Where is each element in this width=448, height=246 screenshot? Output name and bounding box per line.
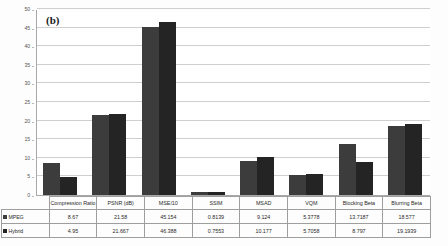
bar-group bbox=[37, 10, 86, 195]
bar-group bbox=[86, 10, 135, 195]
legend-label: MPEG bbox=[9, 214, 24, 220]
bar bbox=[109, 114, 126, 195]
table-cell-value: 46.388 bbox=[144, 224, 192, 238]
table-cell-value: 0.7553 bbox=[192, 224, 240, 238]
bar bbox=[388, 126, 405, 195]
bar bbox=[339, 144, 356, 195]
table-cell-value: 0.8139 bbox=[192, 210, 240, 224]
plot-area bbox=[36, 10, 430, 196]
bar bbox=[356, 162, 373, 195]
bar bbox=[159, 22, 176, 195]
table-cell-value: 19.1939 bbox=[383, 224, 431, 238]
y-axis-tick-mark bbox=[32, 159, 34, 160]
y-axis-tick-mark bbox=[32, 122, 34, 123]
y-axis-tick-mark bbox=[32, 84, 34, 85]
bar-group bbox=[185, 10, 234, 195]
table-header-row: Compression RatioPSNR (dB)MSE/10SSIMMSAD… bbox=[2, 197, 431, 210]
gridline bbox=[37, 8, 430, 9]
column-header: MSAD bbox=[240, 197, 288, 210]
legend-swatch-icon bbox=[3, 229, 7, 233]
table-corner-cell bbox=[2, 197, 50, 210]
bar bbox=[60, 177, 77, 195]
y-axis-tick-mark bbox=[32, 47, 34, 48]
table-cell-value: 8.67 bbox=[49, 210, 97, 224]
bar-group bbox=[136, 10, 185, 195]
y-axis-tick-label: 50 bbox=[24, 7, 30, 12]
table-row: Hybrid4.9521.66746.3880.755310.1775.7058… bbox=[2, 224, 431, 238]
bar bbox=[92, 115, 109, 195]
table-cell-value: 5.3778 bbox=[287, 210, 335, 224]
legend-entry-hybrid: Hybrid bbox=[2, 224, 50, 238]
bar bbox=[208, 192, 225, 195]
bar bbox=[405, 124, 422, 195]
table-cell-value: 13.7187 bbox=[335, 210, 383, 224]
table-cell-value: 21.667 bbox=[97, 224, 145, 238]
y-axis: 05101520253035404550 bbox=[0, 6, 34, 202]
y-axis-tick-label: 40 bbox=[24, 44, 30, 49]
column-header: PSNR (dB) bbox=[97, 197, 145, 210]
table-cell-value: 21.58 bbox=[97, 210, 145, 224]
bar-group bbox=[333, 10, 382, 195]
column-header: MSE/10 bbox=[144, 197, 192, 210]
table-cell-value: 45.154 bbox=[144, 210, 192, 224]
y-axis-tick-label: 20 bbox=[24, 119, 30, 124]
table-cell-value: 9.124 bbox=[240, 210, 288, 224]
panel-label: (b) bbox=[46, 14, 59, 26]
table-cell-value: 10.177 bbox=[240, 224, 288, 238]
column-header: Blocking Beta bbox=[335, 197, 383, 210]
y-axis-tick-mark bbox=[32, 103, 34, 104]
table-cell-value: 5.7058 bbox=[287, 224, 335, 238]
column-header: Blurring Beta bbox=[383, 197, 431, 210]
y-axis-tick-label: 5 bbox=[27, 174, 30, 179]
column-header: VQM bbox=[287, 197, 335, 210]
bar bbox=[257, 157, 274, 195]
data-table: Compression RatioPSNR (dB)MSE/10SSIMMSAD… bbox=[1, 196, 431, 238]
bar-group bbox=[382, 10, 431, 195]
legend-swatch-icon bbox=[3, 215, 7, 219]
y-axis-tick-mark bbox=[32, 177, 34, 178]
y-axis-tick-label: 35 bbox=[24, 63, 30, 68]
y-axis-tick-label: 25 bbox=[24, 100, 30, 105]
y-axis-tick-label: 15 bbox=[24, 137, 30, 142]
y-axis-tick-mark bbox=[32, 66, 34, 67]
y-axis-tick-label: 10 bbox=[24, 156, 30, 161]
bar bbox=[43, 163, 60, 195]
y-axis-tick-mark bbox=[32, 140, 34, 141]
table-cell-value: 8.797 bbox=[335, 224, 383, 238]
column-header: Compression Ratio bbox=[49, 197, 97, 210]
y-axis-tick-mark bbox=[32, 29, 34, 30]
bar-group bbox=[283, 10, 332, 195]
bars-layer bbox=[37, 10, 430, 195]
bar-chart-figure: 05101520253035404550 (b) Compression Rat… bbox=[0, 0, 448, 246]
bar bbox=[240, 161, 257, 195]
bar bbox=[289, 175, 306, 195]
bar bbox=[142, 27, 159, 195]
table-row: MPEG8.6721.5845.1540.81399.1245.377813.7… bbox=[2, 210, 431, 224]
bar bbox=[306, 174, 323, 195]
legend-entry-mpeg: MPEG bbox=[2, 210, 50, 224]
y-axis-tick-mark bbox=[32, 10, 34, 11]
y-axis-tick-label: 30 bbox=[24, 81, 30, 86]
y-axis-tick-label: 45 bbox=[24, 26, 30, 31]
plot-region: 05101520253035404550 (b) bbox=[0, 6, 448, 202]
table-cell-value: 18.577 bbox=[383, 210, 431, 224]
bar-group bbox=[234, 10, 283, 195]
bar bbox=[191, 192, 208, 195]
table-cell-value: 4.95 bbox=[49, 224, 97, 238]
legend-label: Hybrid bbox=[9, 228, 24, 234]
column-header: SSIM bbox=[192, 197, 240, 210]
